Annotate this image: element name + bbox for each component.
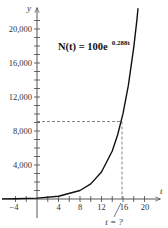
x-tick-label: 12 xyxy=(97,202,106,212)
y-tick-label: 20,000 xyxy=(9,24,32,34)
y-tick-label: 16,000 xyxy=(9,58,32,68)
y-tick-label: 4,000 xyxy=(13,160,32,170)
t-question-label: t = ? xyxy=(105,217,123,227)
x-tick-label: 20 xyxy=(141,202,150,212)
y-tick-label: 12,000 xyxy=(9,92,32,102)
y-tick-label: 8,000 xyxy=(13,126,32,136)
x-tick-label: −4 xyxy=(9,202,19,212)
x-axis-label: t xyxy=(160,186,163,196)
exponential-growth-chart: y t 4,000 8,000 12,000 16,000 20,000 xyxy=(0,0,168,228)
formula-label: N(t) = 100e 0.288t xyxy=(58,36,130,53)
y-ticks xyxy=(34,21,40,191)
x-tick-label: 8 xyxy=(78,202,82,212)
x-tick-label: 4 xyxy=(56,202,61,212)
exponential-curve xyxy=(2,8,138,199)
y-axis-label: y xyxy=(26,3,31,13)
